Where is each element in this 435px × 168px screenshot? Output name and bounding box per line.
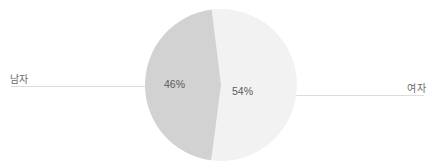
slice-value-male: 46% [164, 78, 185, 90]
pie-slice-female[interactable] [211, 9, 297, 161]
category-label-female: 여자 [407, 83, 426, 95]
pie-chart-canvas [0, 0, 435, 168]
pie-chart-figure: 남자 여자 46% 54% [0, 0, 435, 168]
category-label-male: 남자 [10, 74, 29, 86]
slice-value-female: 54% [232, 85, 253, 97]
